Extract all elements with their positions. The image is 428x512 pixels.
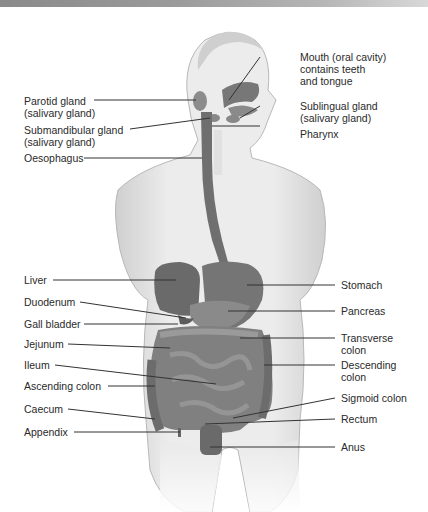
label-submandibular-gland: Submandibular gland (salivary gland)	[24, 124, 123, 148]
label-stomach: Stomach	[341, 279, 382, 291]
label-sigmoid-colon: Sigmoid colon	[341, 392, 407, 404]
label-duodenum: Duodenum	[24, 296, 75, 308]
label-pancreas: Pancreas	[341, 305, 385, 317]
label-transverse-colon: Transverse colon	[341, 332, 393, 356]
label-sublingual-gland: Sublingual gland (salivary gland)	[300, 100, 378, 124]
label-rectum: Rectum	[341, 413, 377, 425]
label-liver: Liver	[24, 274, 47, 286]
label-oesophagus: Oesophagus	[24, 152, 84, 164]
label-appendix: Appendix	[24, 426, 68, 438]
label-ascending-colon: Ascending colon	[24, 380, 101, 392]
label-jejunum: Jejunum	[24, 338, 64, 350]
label-caecum: Caecum	[24, 403, 63, 415]
label-pharynx: Pharynx	[300, 128, 339, 140]
label-anus: Anus	[341, 441, 365, 453]
label-gall-bladder: Gall bladder	[24, 318, 81, 330]
label-mouth: Mouth (oral cavity) contains teeth and t…	[300, 51, 386, 87]
label-parotid-gland: Parotid gland (salivary gland)	[24, 95, 95, 119]
label-descending-colon: Descending colon	[341, 359, 396, 383]
label-ileum: Ileum	[24, 359, 50, 371]
